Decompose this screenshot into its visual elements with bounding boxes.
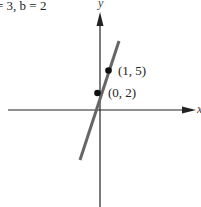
graph	[0, 0, 201, 207]
point-1-5	[105, 67, 112, 74]
point-label-1-5: (1, 5)	[118, 63, 146, 79]
point-0-2	[94, 90, 101, 97]
point-label-0-2: (0, 2)	[108, 85, 136, 101]
y-axis-arrow-icon	[97, 12, 104, 26]
x-axis-arrow-icon	[182, 107, 196, 114]
